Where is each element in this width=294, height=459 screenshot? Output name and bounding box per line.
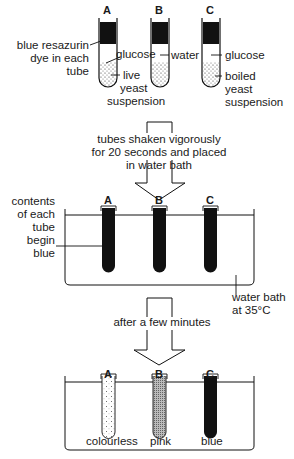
tube-a-initial bbox=[99, 18, 117, 87]
tube-c-initial bbox=[202, 18, 220, 87]
water-bath-label-line1: water bath bbox=[232, 291, 286, 304]
tube-a-glucose-label: glucose bbox=[116, 48, 156, 61]
tube-label-c: C bbox=[206, 5, 214, 16]
live-yeast-label-line1: live bbox=[123, 69, 140, 82]
bath2-label-c: C bbox=[206, 369, 214, 380]
begin-blue-line3: tube bbox=[0, 221, 55, 234]
bath2-label-a: A bbox=[104, 369, 112, 380]
begin-blue-line1: contents bbox=[0, 195, 55, 208]
tube-label-b: B bbox=[155, 5, 163, 16]
live-yeast-label-line2: yeast bbox=[120, 82, 148, 95]
bath2-tubes bbox=[101, 374, 218, 439]
step1-line3: in water bath bbox=[0, 159, 294, 172]
live-yeast-label-line3: suspension bbox=[107, 95, 165, 108]
tube-b-water-label: water bbox=[171, 49, 199, 62]
boiled-yeast-label-line3: suspension bbox=[225, 96, 283, 109]
tube-label-a: A bbox=[103, 5, 111, 16]
result-c-blue: blue bbox=[201, 435, 223, 448]
result-b-pink: pink bbox=[150, 435, 171, 448]
begin-blue-line4: begin bbox=[0, 234, 55, 247]
bath1-label-b: B bbox=[155, 195, 163, 206]
dye-label-line2: dye in each bbox=[0, 52, 89, 65]
bath2-label-b: B bbox=[155, 369, 163, 380]
result-a-colourless: colourless bbox=[86, 435, 138, 448]
bath1-tubes bbox=[101, 206, 218, 273]
boiled-yeast-label-line2: yeast bbox=[225, 83, 253, 96]
bath1-label-c: C bbox=[206, 195, 214, 206]
boiled-yeast-label-line1: boiled bbox=[225, 70, 256, 83]
begin-blue-line2: of each bbox=[0, 208, 55, 221]
step1-line2: for 20 seconds and placed bbox=[0, 146, 294, 159]
step1-line1: tubes shaken vigorously bbox=[0, 133, 294, 146]
bath1-label-a: A bbox=[104, 195, 112, 206]
arrow-down-2 bbox=[134, 298, 185, 365]
dye-label-line1: blue resazurin bbox=[0, 39, 89, 52]
begin-blue-line5: blue bbox=[0, 247, 55, 260]
dye-label-line3: tube bbox=[0, 65, 89, 78]
tube-c-glucose-label: glucose bbox=[225, 49, 265, 62]
step2-text: after a few minutes bbox=[0, 316, 294, 329]
